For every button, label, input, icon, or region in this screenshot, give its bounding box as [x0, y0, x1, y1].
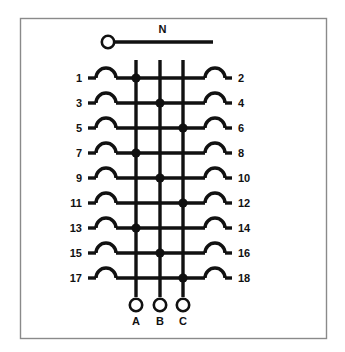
- row-right-terminal-label: 18: [238, 272, 250, 284]
- junction-dot-b[interactable]: [155, 98, 164, 107]
- row-left-terminal-label: 3: [76, 97, 82, 109]
- row-right-terminal-label: 8: [238, 147, 244, 159]
- junction-dot-a[interactable]: [131, 223, 140, 232]
- row-left-terminal-label: 5: [76, 122, 82, 134]
- row-right-terminal-label: 14: [238, 222, 251, 234]
- phase-terminal-circle-icon-c[interactable]: [177, 299, 189, 311]
- junction-dot-c[interactable]: [178, 273, 187, 282]
- wiring-diagram-canvas: N 123456789101112131415161718 ABC: [0, 0, 345, 352]
- row-left-terminal-label: 13: [70, 222, 82, 234]
- row-right-terminal-label: 12: [238, 197, 250, 209]
- row-right-terminal-label: 2: [238, 72, 244, 84]
- junction-dot-c[interactable]: [178, 198, 187, 207]
- phase-terminal-label-c: C: [179, 315, 187, 327]
- phase-terminal-circle-icon-b[interactable]: [154, 299, 166, 311]
- row-left-terminal-label: 1: [76, 72, 82, 84]
- row-left-terminal-label: 9: [76, 172, 82, 184]
- wiring-diagram-root: N 123456789101112131415161718 ABC: [0, 0, 345, 352]
- row-left-terminal-label: 15: [70, 247, 82, 259]
- junction-dot-b[interactable]: [155, 248, 164, 257]
- row-left-terminal-label: 17: [70, 272, 82, 284]
- junction-dot-b[interactable]: [155, 173, 164, 182]
- junction-dot-a[interactable]: [131, 148, 140, 157]
- row-right-terminal-label: 10: [238, 172, 250, 184]
- circuit-rows-group: 123456789101112131415161718: [70, 68, 251, 284]
- neutral-terminal-circle-icon[interactable]: [102, 36, 114, 48]
- phase-terminal-circle-icon-a[interactable]: [130, 299, 142, 311]
- junction-dot-c[interactable]: [178, 123, 187, 132]
- row-left-terminal-label: 11: [70, 197, 82, 209]
- neutral-bus-label: N: [159, 23, 167, 35]
- row-right-terminal-label: 16: [238, 247, 250, 259]
- phase-terminal-label-a: A: [132, 315, 140, 327]
- row-right-terminal-label: 4: [238, 97, 245, 109]
- row-right-terminal-label: 6: [238, 122, 244, 134]
- row-left-terminal-label: 7: [76, 147, 82, 159]
- junction-dot-a[interactable]: [131, 73, 140, 82]
- phase-terminal-label-b: B: [156, 315, 164, 327]
